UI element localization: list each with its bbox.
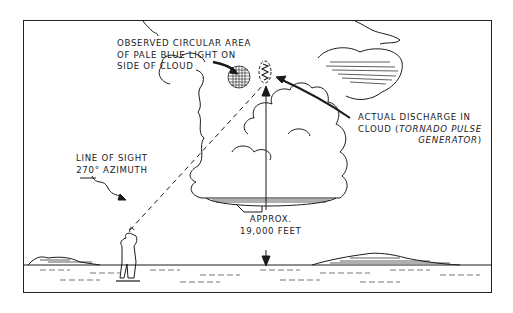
horizon-ground [24,253,492,282]
wisp-left [143,21,158,36]
discharge-line-1: ACTUAL DISCHARGE IN [358,112,482,124]
observed-area-line-2: OF PALE BLUE LIGHT ON [117,50,251,62]
discharge-oval [259,61,271,83]
wisp-right [355,21,400,44]
line-of-sight-label: LINE OF SIGHT 270° AZIMUTH [76,153,148,176]
altitude-line-2: 19,000 FEET [240,226,302,238]
observed-area-line-1: OBSERVED CIRCULAR AREA [117,38,251,50]
discharge-line-3: GENERATOR) [358,135,482,147]
discharge-label: ACTUAL DISCHARGE IN CLOUD (TORNADO PULSE… [358,112,482,147]
observed-area-label: OBSERVED CIRCULAR AREA OF PALE BLUE LIGH… [117,38,251,73]
altitude-label: APPROX. 19,000 FEET [240,214,302,237]
discharge-line-2: CLOUD (TORNADO PULSE [358,124,482,136]
altitude-line-1: APPROX. [240,214,302,226]
observed-area-line-3: SIDE OF CLOUD [117,61,251,73]
line-of-sight [130,84,264,230]
discharge-arrow [278,78,350,118]
line-of-sight-line-1: LINE OF SIGHT [76,153,148,165]
cloud-main-body [159,53,347,212]
line-of-sight-line-2: 270° AZIMUTH [76,165,148,177]
line-of-sight-callout [92,176,124,198]
cloud-upper-anvil [318,48,402,100]
mountains-left [28,257,100,265]
